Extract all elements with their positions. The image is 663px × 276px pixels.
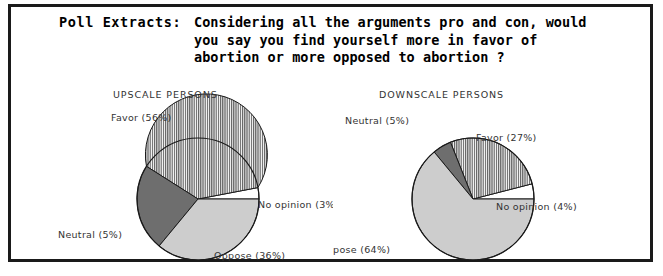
poll-extracts-label: Poll Extracts: [59,14,181,30]
chart-title-downscale: DOWNSCALE PERSONS [379,89,504,100]
label-favor: Favor (27%) [476,132,537,143]
label-oppose: Oppose (64%) [333,244,390,255]
poll-question: Considering all the arguments pro and co… [194,14,587,67]
pie-chart-downscale-persons: DOWNSCALE PERSONS Neutral (5%) Favor (27… [333,81,655,262]
question-line-3: abortion or more opposed to abortion ? [194,49,587,67]
question-line-2: you say you find yourself more in favor … [194,32,587,50]
poll-extract-figure: Poll Extracts: Considering all the argum… [8,4,653,262]
label-neutral: Neutral (5%) [345,115,409,126]
label-neutral: Neutral (5%) [58,229,122,240]
label-no-opinion: No opinion (4%) [496,201,577,212]
figure-header: Poll Extracts: Considering all the argum… [11,7,650,81]
question-line-1: Considering all the arguments pro and co… [194,14,587,32]
pie-chart-upscale-persons: UPSCALE PERSONS Favor (56%) No opinion (… [11,81,333,262]
label-favor: Favor (56%) [111,112,172,123]
label-oppose: Oppose (36%) [214,250,285,261]
label-no-opinion: No opinion (3%) [258,199,333,210]
chart-title-upscale: UPSCALE PERSONS [113,89,218,100]
